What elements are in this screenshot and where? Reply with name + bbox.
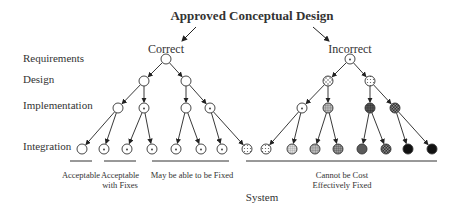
requirements-node bbox=[161, 54, 171, 64]
implementation-node bbox=[323, 103, 333, 113]
tree-edge-arrow bbox=[189, 85, 206, 104]
tree-edge-arrow bbox=[306, 85, 324, 104]
tree-edge-arrow bbox=[363, 113, 369, 143]
tree-edge-arrow bbox=[86, 112, 115, 145]
tree-edge-arrow bbox=[398, 112, 428, 145]
design-node bbox=[323, 76, 333, 86]
category-label-acceptable: Acceptable bbox=[62, 170, 100, 180]
tree-edge-arrow bbox=[293, 113, 300, 143]
tree-edge-arrow bbox=[329, 113, 336, 143]
diagram-title: Approved Conceptual Design bbox=[170, 8, 334, 23]
implementation-node-marker-dot bbox=[301, 108, 303, 110]
footer-system-label: System bbox=[246, 191, 279, 203]
tree-edge-arrow bbox=[373, 85, 391, 104]
tree-edge-arrow bbox=[169, 63, 182, 77]
implementation-node bbox=[365, 103, 375, 113]
integration-node-marker-dot bbox=[151, 149, 153, 151]
integration-node bbox=[427, 144, 437, 154]
tree-edge-arrow bbox=[317, 113, 327, 144]
implementation-node-marker-dot bbox=[143, 108, 145, 110]
implementation-node bbox=[181, 103, 191, 113]
tree-edge-arrow bbox=[372, 113, 384, 144]
integration-node-marker-dot bbox=[126, 149, 128, 151]
title-arrow-left bbox=[182, 27, 196, 41]
row-label-integration: Integration bbox=[23, 140, 72, 152]
tree-edge-arrow bbox=[188, 113, 199, 144]
tree-edge-arrow bbox=[177, 113, 184, 143]
design-node bbox=[365, 76, 375, 86]
tree-edges bbox=[86, 63, 428, 145]
tree-edge-arrow bbox=[213, 112, 243, 145]
integration-node bbox=[77, 144, 87, 154]
integration-node bbox=[403, 144, 413, 154]
integration-node bbox=[310, 144, 320, 154]
design-node bbox=[139, 76, 149, 86]
integration-node bbox=[357, 144, 367, 154]
category-label-cannot-be-fixed-2: Effectively Fixed bbox=[312, 180, 372, 190]
tree-edge-arrow bbox=[145, 113, 151, 143]
requirements-node-marker-dot bbox=[349, 59, 351, 61]
tree-edge-arrow bbox=[397, 113, 407, 144]
implementation-node bbox=[390, 103, 400, 113]
integration-node bbox=[287, 144, 297, 154]
integration-node bbox=[242, 144, 252, 154]
row-label-design: Design bbox=[23, 73, 55, 85]
category-label-acceptable-with-fixes-1: Acceptable bbox=[101, 170, 139, 180]
integration-node-marker-dot bbox=[221, 149, 223, 151]
category-label-cannot-be-fixed-1: Cannot be Cost bbox=[316, 170, 369, 180]
tree-edge-arrow bbox=[122, 85, 140, 104]
category-label-acceptable-with-fixes-2: with Fixes bbox=[102, 180, 138, 190]
integration-node-marker-dot bbox=[175, 149, 177, 151]
integration-node bbox=[381, 144, 391, 154]
title-arrow-right bbox=[313, 27, 329, 41]
integration-node bbox=[333, 144, 343, 154]
integration-node-marker-dot bbox=[103, 149, 105, 151]
implementation-node-marker-dot bbox=[209, 108, 211, 110]
row-label-requirements: Requirements bbox=[23, 52, 84, 64]
integration-node-marker-dot bbox=[200, 149, 202, 151]
diagram: Approved Conceptual Design Correct Incor… bbox=[0, 0, 462, 215]
implementation-node bbox=[113, 103, 123, 113]
tree-edge-arrow bbox=[148, 63, 162, 77]
integration-node bbox=[261, 144, 271, 154]
row-label-implementation: Implementation bbox=[23, 99, 93, 111]
design-node bbox=[181, 76, 191, 86]
tree-edge-arrow bbox=[129, 113, 142, 144]
tree-edge-arrow bbox=[353, 63, 366, 77]
tree-edge-arrow bbox=[106, 113, 116, 144]
category-label-may-be-fixed: May be able to be Fixed bbox=[151, 170, 234, 180]
tree-edge-arrow bbox=[332, 63, 346, 77]
